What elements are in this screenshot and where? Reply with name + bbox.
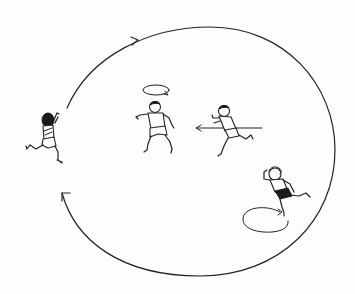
- figure-spinner-center: [136, 85, 174, 153]
- loop-center: [143, 85, 169, 95]
- main-circuit-path: [62, 27, 335, 276]
- diagram-canvas: Line drawing of a movement game: four ch…: [0, 0, 355, 294]
- figure-dasher-right: [196, 105, 262, 156]
- figure-runner-left: [26, 113, 62, 163]
- figure-looper-bottom-right: [243, 167, 310, 232]
- loop-bottom-right: [243, 208, 288, 233]
- diagram-svg: [0, 0, 355, 294]
